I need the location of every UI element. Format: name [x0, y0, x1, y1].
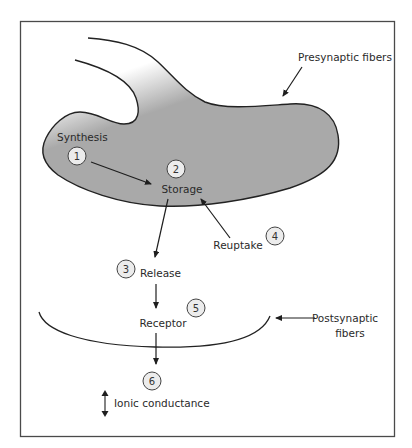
step-4-badge: 4 [266, 227, 284, 245]
svg-text:6: 6 [149, 376, 155, 387]
svg-text:1: 1 [74, 151, 80, 162]
presynaptic-fibers-label: Presynaptic fibers [298, 51, 392, 63]
step-6-badge: 6 [143, 372, 161, 390]
svg-text:5: 5 [193, 303, 199, 314]
synapse-diagram: Presynaptic fibers Synthesis 1 2 Storage… [0, 0, 412, 448]
step-3-badge: 3 [117, 260, 135, 278]
step-2-label: Storage [161, 183, 202, 195]
step-1-label: Synthesis [57, 131, 108, 143]
step-2-badge: 2 [167, 160, 185, 178]
svg-text:3: 3 [123, 264, 129, 275]
step-4-label: Reuptake [213, 239, 262, 251]
step-5-badge: 5 [187, 299, 205, 317]
step-1-badge: 1 [68, 147, 86, 165]
postsynaptic-fibers-label-line1: Postsynaptic [312, 312, 378, 324]
postsynaptic-fibers-label-line2: fibers [335, 327, 365, 339]
svg-text:2: 2 [173, 164, 179, 175]
step-3-label: Release [140, 267, 181, 279]
step-6-label: Ionic conductance [114, 397, 210, 409]
step-5-label: Receptor [139, 317, 187, 329]
figure-frame [21, 22, 395, 437]
svg-text:4: 4 [272, 231, 278, 242]
